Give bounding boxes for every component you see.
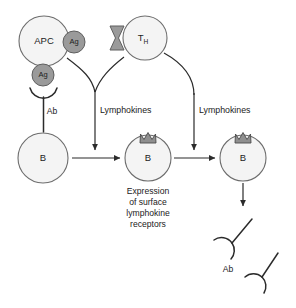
antigen-label-apc: Ag (69, 37, 78, 46)
th-cell-subscript: H (144, 37, 149, 44)
lymphokine-curve-right (164, 53, 194, 95)
t-cell-receptor-icon (110, 26, 124, 50)
caption-line-1: Expression (127, 186, 170, 196)
b-cell-3-label: B (240, 152, 246, 163)
b-cell-1-label: B (40, 152, 46, 163)
b-cell-2-label: B (145, 152, 151, 163)
antibody-1-arm-left (214, 238, 232, 243)
diagram-canvas: APC Ag Ag TH Ab B B B Lymphokines (0, 0, 296, 308)
antibody-2-arm-left (245, 274, 262, 277)
caption-line-3: lymphokine (126, 208, 170, 218)
immunology-diagram: APC Ag Ag TH Ab B B B Lymphokines (0, 0, 296, 308)
lymphokine-branch-from-apc (67, 58, 95, 92)
antibody-label-secreted: Ab (223, 264, 234, 274)
lymphokine-label-left: Lymphokines (100, 105, 152, 115)
apc-cell-label: APC (34, 35, 54, 46)
antibody-1-stem (232, 219, 252, 243)
antibody-2-stem (262, 253, 278, 277)
caption-line-4: receptors (130, 219, 166, 229)
lymphokine-branch-from-th (95, 57, 124, 92)
antibody-2-arm-right (262, 277, 266, 293)
surface-receptor-crown-icon-b3 (235, 133, 251, 144)
antibody-1-arm-right (231, 243, 234, 259)
caption-line-2: of surface (129, 197, 167, 207)
antibody-label-b1: Ab (47, 106, 58, 116)
lymphokine-label-right: Lymphokines (199, 105, 251, 115)
antigen-label-presented: Ag (38, 70, 47, 79)
surface-receptor-crown-icon-b2 (140, 133, 156, 144)
